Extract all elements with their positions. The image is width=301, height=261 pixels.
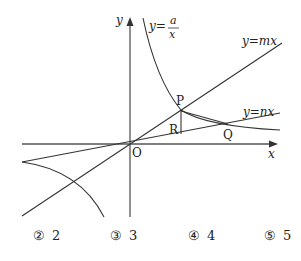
line-y-mx [22, 43, 282, 216]
hyperbola-numerator: a [170, 14, 177, 27]
hyperbola-label-prefix: y= [148, 19, 166, 33]
choice-number: ⑤ [264, 228, 276, 243]
graph-figure: y x O y= a x y=mx y=nx P Q R [0, 0, 301, 225]
choice-value: 2 [52, 228, 60, 243]
choice-5[interactable]: ⑤5 [264, 228, 291, 243]
choice-number: ② [33, 228, 45, 243]
x-axis-label: x [268, 147, 275, 161]
line-y-nx [22, 113, 280, 162]
choice-value: 5 [283, 228, 291, 243]
choice-value: 4 [207, 228, 215, 243]
choice-2[interactable]: ②2 [33, 228, 60, 243]
answer-choices: ②2 ③3 ④4 ⑤5 [0, 228, 301, 248]
y-axis-arrow-icon [127, 17, 134, 26]
line-nx-label: y=nx [242, 105, 275, 119]
choice-number: ④ [188, 228, 200, 243]
point-P-label: P [176, 94, 184, 108]
choice-4[interactable]: ④4 [188, 228, 215, 243]
segment-PQ [181, 111, 228, 124]
choice-number: ③ [110, 228, 122, 243]
point-R-label: R [169, 123, 179, 137]
choice-3[interactable]: ③3 [110, 228, 137, 243]
point-Q-label: Q [223, 128, 233, 142]
y-axis-label: y [115, 13, 123, 27]
line-mx-label: y=mx [241, 34, 277, 48]
hyperbola-denominator: x [169, 28, 176, 41]
hyperbola-label: y= a x [148, 14, 179, 41]
choice-value: 3 [129, 228, 137, 243]
origin-label: O [132, 146, 142, 160]
